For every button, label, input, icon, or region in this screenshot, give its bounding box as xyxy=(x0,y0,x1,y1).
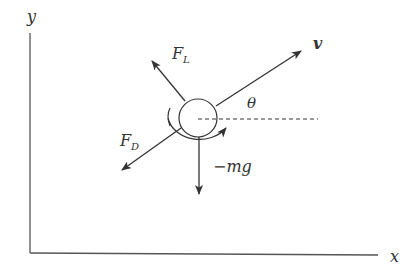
gravity-label: −mg xyxy=(213,157,252,176)
lift-arrow xyxy=(152,61,185,101)
drag-label: FD xyxy=(119,131,139,152)
y-axis-label: y xyxy=(26,7,37,26)
x-axis xyxy=(30,253,378,255)
angle-label: θ xyxy=(247,94,256,112)
axes: y x xyxy=(26,7,399,266)
velocity-label: v xyxy=(313,34,323,53)
velocity-arrow xyxy=(216,51,301,106)
ball xyxy=(179,99,217,137)
force-diagram: y x v FL FD −mg θ xyxy=(0,0,416,280)
x-axis-label: x xyxy=(390,247,399,266)
lift-label: FL xyxy=(171,44,190,65)
